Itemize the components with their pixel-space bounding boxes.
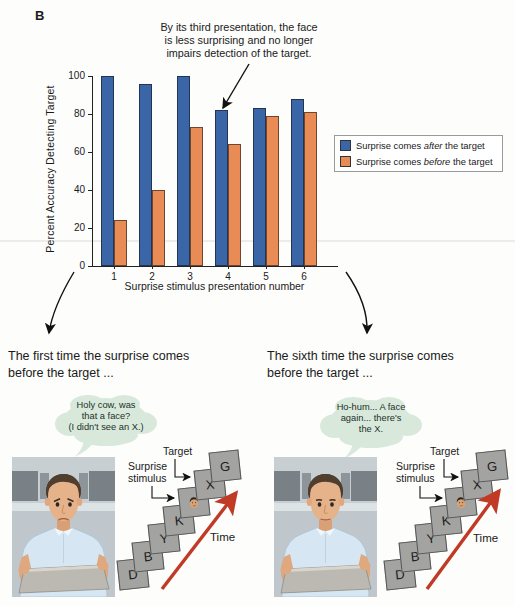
curved-arrow-right [346,272,367,333]
card-letter-G: G [475,450,508,483]
bar-after-5 [253,108,266,266]
legend-item-after: Surprise comes after the target [340,140,497,151]
legend-label-after: Surprise comes after the target [356,140,485,151]
y-tick-mark [88,114,93,115]
legend-swatch-before [340,156,351,167]
legend-item-before: Surprise comes before the target [340,156,497,167]
y-tick-mark [88,266,93,267]
speech-bubble-left-text: Holy cow, was that a face? (I didn't see… [50,400,162,433]
x-tick-mark [228,266,229,269]
y-tick-label: 60 [55,146,85,157]
person-calm-drawing [274,457,377,597]
surprise-stimulus-label: Surprise stimulus [128,461,167,484]
x-tick-mark [114,266,115,269]
person-surprised-drawing [12,457,115,597]
time-label: Time [473,532,498,544]
surprise-stimulus-label: Surprise stimulus [396,461,435,484]
y-tick-label: 20 [55,222,85,233]
figure: B By its third presentation, the face is… [0,0,515,606]
speech-bubble-right-text: Ho-hum... A face again... there's the X. [315,402,427,435]
bar-after-2 [139,84,152,266]
chart-annotation: By its third presentation, the face is l… [158,21,320,60]
bar-before-4 [228,144,241,266]
curved-arrow-left [49,272,74,333]
panel-letter: B [35,8,44,23]
bar-after-1 [101,76,114,266]
y-axis-label: Percent Accuracy Detecting Target [44,64,56,274]
bar-before-5 [266,116,279,266]
y-tick-mark [88,228,93,229]
person-illustration-calm [274,457,377,597]
y-tick-mark [88,190,93,191]
y-tick-label: 80 [55,108,85,119]
x-tick-mark [304,266,305,269]
bar-after-3 [177,76,190,266]
y-tick-label: 40 [55,184,85,195]
legend-swatch-after [340,140,351,151]
x-axis-label: Surprise stimulus presentation number [92,280,337,292]
target-label: Target [430,446,459,458]
plot-area: 020406080100123456 [92,76,338,267]
legend: Surprise comes after the target Surprise… [334,135,503,172]
x-tick-mark [266,266,267,269]
y-tick-label: 100 [55,70,85,81]
bar-after-4 [215,110,228,266]
y-tick-mark [88,76,93,77]
card-letter-G: G [208,450,241,483]
bar-after-6 [291,99,304,266]
legend-label-before: Surprise comes before the target [356,156,493,167]
bar-before-6 [304,112,317,266]
panel-right-heading: The sixth time the surprise comes before… [267,348,502,381]
time-label: Time [210,531,235,543]
x-tick-mark [190,266,191,269]
bar-before-3 [190,127,203,266]
y-tick-mark [88,152,93,153]
person-illustration-surprised [12,457,115,597]
y-tick-label: 0 [55,260,85,271]
bar-before-1 [114,220,127,266]
bar-before-2 [152,190,165,266]
x-tick-mark [152,266,153,269]
target-label: Target [163,446,192,458]
panel-left-heading: The first time the surprise comes before… [8,348,243,381]
